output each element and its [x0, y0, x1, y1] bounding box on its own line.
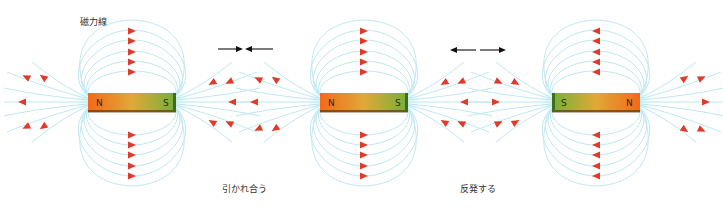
magnetic-field-diagram: N S N	[0, 0, 723, 210]
field-arrows-top	[128, 28, 136, 76]
attract-label: 引かれ合う	[222, 182, 267, 195]
field-arrows-top	[592, 28, 600, 76]
south-pole-label: S	[395, 98, 401, 108]
repel-arrows-icon	[450, 47, 506, 53]
south-pole-label: S	[163, 98, 169, 108]
bar-magnet: N S	[88, 93, 176, 113]
bar-magnet: N S	[320, 93, 408, 113]
bar-magnet: S N	[552, 93, 640, 113]
attract-arrows-icon	[218, 46, 273, 52]
field-lines-label: 磁力線	[80, 15, 107, 28]
field-arrows-top	[360, 28, 368, 76]
north-pole-label: N	[626, 98, 633, 108]
field-arrows-left	[250, 74, 280, 134]
magnet-group-1: N S	[4, 20, 260, 186]
magnet-group-3: S N	[468, 20, 723, 186]
magnet-group-2: N S	[236, 20, 492, 186]
field-arrows-bottom	[592, 132, 600, 180]
field-arrows-bottom	[360, 132, 368, 180]
north-pole-label: N	[328, 98, 335, 108]
north-pole-label: N	[96, 98, 103, 108]
repel-label: 反発する	[460, 182, 496, 195]
field-arrows-bottom	[128, 132, 136, 180]
south-pole-label: S	[561, 98, 567, 108]
